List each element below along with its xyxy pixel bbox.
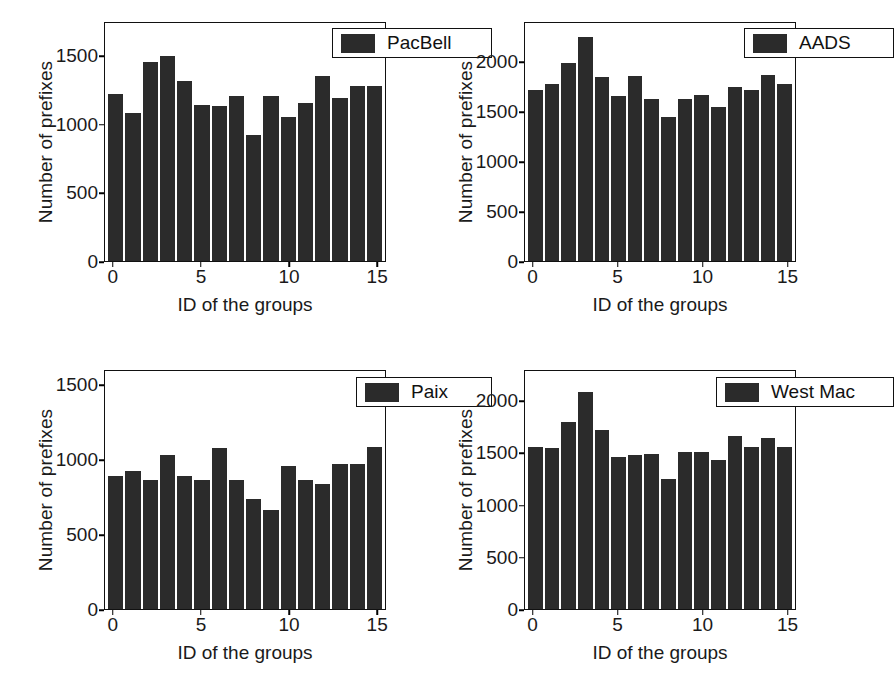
x-axis-ticks: 051015	[104, 262, 386, 288]
y-tick-label: 2000	[476, 51, 518, 73]
bar	[744, 447, 759, 609]
bar	[108, 476, 123, 609]
x-tick-label: 15	[367, 614, 388, 636]
bar	[160, 56, 175, 261]
plot-area	[104, 22, 386, 262]
x-tick-mark	[532, 262, 534, 267]
x-axis-title: ID of the groups	[524, 642, 796, 664]
y-tick-label: 0	[87, 251, 98, 273]
bar	[661, 479, 676, 609]
x-tick-mark	[617, 610, 619, 615]
bar	[108, 94, 123, 261]
bar	[350, 464, 365, 609]
bar	[595, 430, 610, 609]
x-tick-label: 10	[278, 614, 299, 636]
x-tick-mark	[200, 262, 202, 267]
bar	[177, 476, 192, 609]
bar-series	[105, 23, 385, 261]
bar	[125, 113, 140, 261]
x-tick-label: 0	[108, 266, 119, 288]
x-tick-label: 0	[527, 614, 538, 636]
bar	[611, 457, 626, 609]
bar	[644, 454, 659, 609]
bar	[528, 90, 543, 261]
legend: AADS	[744, 28, 894, 58]
bar	[125, 471, 140, 609]
y-tick-label: 0	[507, 251, 518, 273]
bar	[644, 99, 659, 261]
y-axis-title-container: Number of prefixes	[8, 22, 34, 262]
bar	[177, 81, 192, 261]
bar	[212, 106, 227, 261]
x-tick-mark	[112, 262, 114, 267]
x-axis-title: ID of the groups	[104, 642, 386, 664]
bar	[761, 438, 776, 609]
x-tick-mark	[112, 610, 114, 615]
bar	[711, 107, 726, 261]
bar	[367, 447, 382, 609]
y-tick-label: 1000	[56, 114, 98, 136]
y-tick-label: 1500	[56, 374, 98, 396]
legend-label: AADS	[799, 32, 851, 54]
y-tick-label: 1000	[476, 151, 518, 173]
x-tick-label: 5	[196, 266, 207, 288]
bar	[143, 480, 158, 609]
bar	[661, 117, 676, 261]
y-axis-title-container: Number of prefixes	[8, 370, 34, 610]
bar	[298, 103, 313, 261]
bar	[194, 480, 209, 609]
x-tick-label: 0	[108, 614, 119, 636]
bar	[246, 499, 261, 609]
y-tick-label: 500	[66, 524, 98, 546]
bar	[777, 447, 792, 609]
x-tick-label: 15	[777, 614, 798, 636]
legend: West Mac	[716, 377, 894, 407]
legend-label: West Mac	[771, 381, 855, 403]
x-tick-mark	[787, 610, 789, 615]
bar	[744, 90, 759, 261]
bar	[628, 455, 643, 609]
y-tick-label: 1500	[56, 45, 98, 67]
bar	[578, 392, 593, 609]
x-tick-mark	[702, 262, 704, 267]
bar	[694, 95, 709, 261]
bar	[212, 448, 227, 609]
y-axis-ticks: 0500100015002000	[462, 22, 524, 262]
bar-series	[105, 371, 385, 609]
bar	[711, 460, 726, 609]
bar	[777, 84, 792, 262]
bar	[229, 480, 244, 609]
bar	[160, 455, 175, 609]
y-tick-label: 500	[486, 547, 518, 569]
x-tick-mark	[532, 610, 534, 615]
panel-aads: Number of prefixes 0500100015002000 0510…	[420, 0, 831, 347]
y-axis-ticks: 050010001500	[42, 22, 104, 262]
bar	[194, 105, 209, 261]
y-axis-ticks: 050010001500	[42, 370, 104, 610]
bar-series	[525, 23, 795, 261]
bar	[298, 480, 313, 609]
x-axis-title: ID of the groups	[524, 294, 796, 316]
y-axis-ticks: 0500100015002000	[462, 370, 524, 610]
bar	[561, 63, 576, 261]
x-axis-ticks: 051015	[524, 610, 796, 636]
y-axis-title-container: Number of prefixes	[428, 370, 454, 610]
x-tick-mark	[376, 610, 378, 615]
bar	[595, 77, 610, 261]
panel-paix: Number of prefixes 050010001500 051015 I…	[0, 347, 420, 695]
bar	[678, 452, 693, 609]
bar	[281, 117, 296, 261]
bar	[246, 135, 261, 261]
x-tick-label: 0	[527, 266, 538, 288]
bar	[611, 96, 626, 261]
panel-west-mac: Number of prefixes 0500100015002000 0510…	[420, 347, 831, 695]
bar	[628, 76, 643, 261]
x-tick-label: 10	[692, 614, 713, 636]
bar	[728, 436, 743, 609]
y-tick-label: 1000	[476, 495, 518, 517]
bar	[545, 84, 560, 261]
bar	[350, 86, 365, 261]
bar	[728, 87, 743, 261]
y-tick-label: 500	[66, 182, 98, 204]
x-tick-label: 10	[692, 266, 713, 288]
